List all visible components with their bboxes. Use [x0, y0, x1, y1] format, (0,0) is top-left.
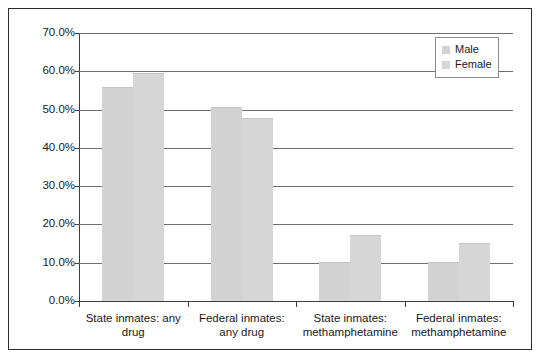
- x-axis-label-line: State inmates:: [296, 311, 405, 325]
- bar-female[interactable]: [133, 73, 164, 301]
- x-axis-label-line: methamphetamine: [296, 325, 405, 339]
- chart-frame: 70.0%60.0%50.0%40.0%30.0%20.0%10.0%0.0% …: [8, 8, 532, 350]
- y-axis-tick-labels: 70.0%60.0%50.0%40.0%30.0%20.0%10.0%0.0%: [9, 33, 75, 302]
- bar-group: [102, 33, 164, 301]
- bar-group: [319, 33, 381, 301]
- x-axis-category-label: State inmates:methamphetamine: [296, 311, 405, 339]
- legend-swatch-icon: [442, 46, 450, 54]
- x-axis-label-line: any drug: [188, 325, 297, 339]
- y-axis-tick-label: 70.0%: [13, 27, 75, 39]
- x-axis-tick-mark: [405, 301, 406, 307]
- legend-swatch-icon: [442, 61, 450, 69]
- legend-label: Female: [455, 59, 492, 70]
- x-axis-label-line: State inmates: any: [79, 311, 188, 325]
- legend-item-male[interactable]: Male: [442, 42, 492, 57]
- bar-male[interactable]: [319, 262, 350, 301]
- bar-female[interactable]: [242, 118, 273, 301]
- y-axis-tick-label: 30.0%: [13, 180, 75, 192]
- y-axis-tick-label: 20.0%: [13, 219, 75, 231]
- y-axis-tick-label: 0.0%: [13, 295, 75, 307]
- x-axis-category-labels: State inmates: anydrugFederal inmates:an…: [79, 311, 513, 351]
- x-axis-label-line: Federal inmates:: [188, 311, 297, 325]
- y-axis-tick-label: 10.0%: [13, 257, 75, 269]
- legend-label: Male: [455, 44, 479, 55]
- y-axis-tick-label: 60.0%: [13, 66, 75, 78]
- x-axis-category-label: State inmates: anydrug: [79, 311, 188, 339]
- chart-legend: MaleFemale: [435, 37, 499, 78]
- bar-female[interactable]: [459, 243, 490, 301]
- y-axis-tick-label: 40.0%: [13, 142, 75, 154]
- bar-group: [211, 33, 273, 301]
- x-axis-tick-mark: [79, 301, 80, 307]
- x-axis-tick-mark: [296, 301, 297, 307]
- y-axis-tick-label: 50.0%: [13, 104, 75, 116]
- x-axis-category-label: Federal inmates:methamphetamine: [405, 311, 514, 339]
- bar-male[interactable]: [428, 262, 459, 301]
- x-axis-label-line: Federal inmates:: [405, 311, 514, 325]
- bar-female[interactable]: [350, 235, 381, 301]
- bar-male[interactable]: [102, 87, 133, 301]
- x-axis-label-line: methamphetamine: [405, 325, 514, 339]
- bar-male[interactable]: [211, 107, 242, 301]
- x-axis-label-line: drug: [79, 325, 188, 339]
- x-axis-tick-mark: [188, 301, 189, 307]
- x-axis-tick-mark: [513, 301, 514, 307]
- x-axis-category-label: Federal inmates:any drug: [188, 311, 297, 339]
- legend-item-female[interactable]: Female: [442, 57, 492, 72]
